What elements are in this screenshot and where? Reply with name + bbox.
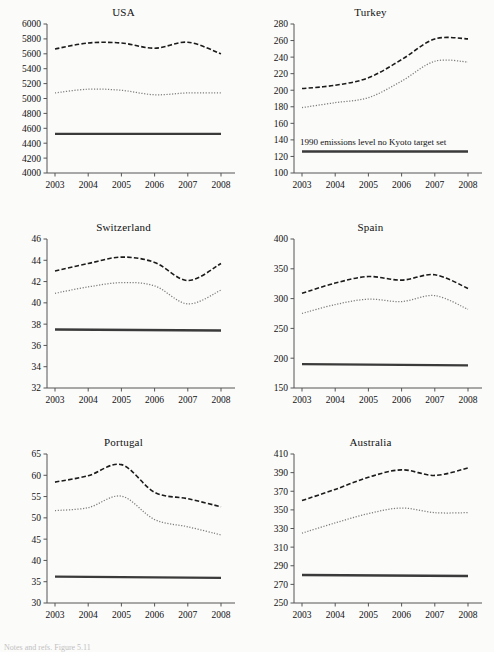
x-tick-label: 2008 xyxy=(459,180,478,190)
chart-title: Australia xyxy=(247,436,494,448)
y-tick-label: 270 xyxy=(274,580,289,590)
x-tick-label: 2008 xyxy=(459,395,478,405)
y-axis-ticks: 3234363840424446 xyxy=(32,234,48,393)
y-tick-label: 250 xyxy=(274,324,289,334)
y-tick-label: 5800 xyxy=(22,34,41,44)
axes xyxy=(294,454,482,603)
y-tick-label: 55 xyxy=(32,492,42,502)
y-tick-label: 180 xyxy=(274,102,289,112)
chart-title: USA xyxy=(0,6,247,18)
series-dashed xyxy=(302,275,468,294)
y-tick-label: 140 xyxy=(274,135,289,145)
y-tick-label: 5200 xyxy=(22,79,41,89)
y-tick-label: 44 xyxy=(32,256,42,266)
chart-panel-usa: USA4000420044004600480050005200540056005… xyxy=(0,0,247,215)
x-tick-label: 2004 xyxy=(326,180,345,190)
y-tick-label: 350 xyxy=(274,264,289,274)
chart-panel-portugal: Portugal30354045505560652003200420052006… xyxy=(0,430,247,645)
chart-panel-turkey: Turkey1001201401601802002202402602802003… xyxy=(247,0,494,215)
y-tick-label: 6000 xyxy=(22,19,41,29)
series-dotted xyxy=(55,89,221,95)
y-axis-ticks: 3035404550556065 xyxy=(32,449,48,608)
x-axis-ticks: 200320042005200620072008 xyxy=(293,173,478,190)
axes xyxy=(47,239,235,388)
x-tick-label: 2006 xyxy=(145,395,164,405)
series-dashed xyxy=(55,464,221,507)
x-tick-label: 2007 xyxy=(178,180,197,190)
series-dotted xyxy=(302,508,468,533)
y-tick-label: 4400 xyxy=(22,139,41,149)
chart-title: Turkey xyxy=(247,6,494,18)
x-tick-label: 2007 xyxy=(178,395,197,405)
series-dashed xyxy=(55,257,221,280)
y-tick-label: 4600 xyxy=(22,124,41,134)
y-tick-label: 280 xyxy=(274,19,289,29)
x-tick-label: 2003 xyxy=(293,395,312,405)
x-axis-ticks: 200320042005200620072008 xyxy=(293,388,478,405)
y-axis-ticks: 4000420044004600480050005200540056005800… xyxy=(22,19,47,178)
x-tick-label: 2007 xyxy=(425,610,444,620)
y-tick-label: 60 xyxy=(32,471,42,481)
x-tick-label: 2004 xyxy=(79,395,98,405)
chart-panel-australia: Australia2502702903103303503703904102003… xyxy=(247,430,494,645)
y-tick-label: 30 xyxy=(32,598,42,608)
x-tick-label: 2006 xyxy=(392,395,411,405)
y-tick-label: 220 xyxy=(274,69,289,79)
series-dashed xyxy=(302,468,468,501)
x-axis-ticks: 200320042005200620072008 xyxy=(46,603,231,620)
chart-plot-area: 3035404550556065200320042005200620072008 xyxy=(0,430,247,645)
x-tick-label: 2005 xyxy=(112,395,131,405)
chart-title: Spain xyxy=(247,221,494,233)
x-tick-label: 2003 xyxy=(293,610,312,620)
series-dashed xyxy=(302,37,468,88)
y-tick-label: 32 xyxy=(32,383,42,393)
y-tick-label: 310 xyxy=(274,543,289,553)
x-tick-label: 2005 xyxy=(112,180,131,190)
chart-panel-spain: Spain15020025030035040020032004200520062… xyxy=(247,215,494,430)
x-tick-label: 2003 xyxy=(46,395,65,405)
y-tick-label: 160 xyxy=(274,119,289,129)
y-tick-label: 5600 xyxy=(22,49,41,59)
chart-plot-area: 1502002503003504002003200420052006200720… xyxy=(247,215,494,430)
y-tick-label: 100 xyxy=(274,168,289,178)
series-dotted xyxy=(302,60,468,108)
chart-panel-switzerland: Switzerland32343638404244462003200420052… xyxy=(0,215,247,430)
chart-annotation: 1990 emissions level no Kyoto target set xyxy=(300,137,447,147)
y-tick-label: 65 xyxy=(32,449,42,459)
x-tick-label: 2003 xyxy=(293,180,312,190)
y-tick-label: 370 xyxy=(274,487,289,497)
x-tick-label: 2006 xyxy=(392,610,411,620)
y-tick-label: 120 xyxy=(274,152,289,162)
x-tick-label: 2006 xyxy=(392,180,411,190)
x-tick-label: 2008 xyxy=(212,610,231,620)
y-tick-label: 40 xyxy=(32,556,42,566)
chart-plot-area: 2502702903103303503703904102003200420052… xyxy=(247,430,494,645)
x-tick-label: 2008 xyxy=(212,395,231,405)
chart-title: Switzerland xyxy=(0,221,247,233)
y-tick-label: 200 xyxy=(274,86,289,96)
y-tick-label: 46 xyxy=(32,234,42,244)
y-tick-label: 5000 xyxy=(22,94,41,104)
chart-title: Portugal xyxy=(0,436,247,448)
y-tick-label: 390 xyxy=(274,468,289,478)
y-axis-ticks: 250270290310330350370390410 xyxy=(274,449,294,608)
chart-plot-area: 4000420044004600480050005200540056005800… xyxy=(0,0,247,215)
y-tick-label: 410 xyxy=(274,449,289,459)
y-tick-label: 350 xyxy=(274,505,289,515)
chart-plot-area: 1001201401601802002202402602802003200420… xyxy=(247,0,494,215)
x-tick-label: 2007 xyxy=(425,395,444,405)
y-tick-label: 290 xyxy=(274,561,289,571)
series-dotted xyxy=(302,295,468,313)
series-dashed xyxy=(55,42,221,54)
x-tick-label: 2003 xyxy=(46,610,65,620)
y-tick-label: 200 xyxy=(274,354,289,364)
figure-caption: Notes and refs. Figure 5.11 xyxy=(4,643,91,652)
y-tick-label: 330 xyxy=(274,524,289,534)
series-solid xyxy=(55,329,221,330)
y-tick-label: 250 xyxy=(274,598,289,608)
x-tick-label: 2004 xyxy=(79,610,98,620)
x-axis-ticks: 200320042005200620072008 xyxy=(46,173,231,190)
y-tick-label: 34 xyxy=(32,362,42,372)
x-tick-label: 2005 xyxy=(359,180,378,190)
